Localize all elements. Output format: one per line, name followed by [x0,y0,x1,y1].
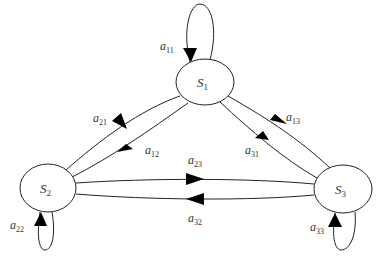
edge-label-a32: a32 [188,211,202,227]
edge-label-a33: a33 [310,220,324,236]
state-diagram: S1 S2 S3 a11 a21 a12 a13 a31 a23 a32 a22… [0,0,383,267]
edge-label-a12: a12 [145,143,159,159]
edge-label-a23: a23 [188,153,202,169]
edge-a13 [228,96,330,168]
arrow-a23 [186,173,204,185]
arrow-a32 [186,193,204,205]
edge-label-a21: a21 [93,111,107,127]
arrow-a22 [34,212,47,226]
edge-a31 [220,102,317,178]
arrow-a33 [328,213,342,227]
arrow-a21 [112,113,127,129]
arrow-a12 [117,144,133,152]
edge-a12 [72,103,188,177]
edge-label-a31: a31 [245,143,259,159]
edge-a21 [66,96,180,170]
edge-label-a11: a11 [160,39,174,55]
edge-label-a22: a22 [10,218,24,234]
edge-label-a13: a13 [286,110,300,126]
